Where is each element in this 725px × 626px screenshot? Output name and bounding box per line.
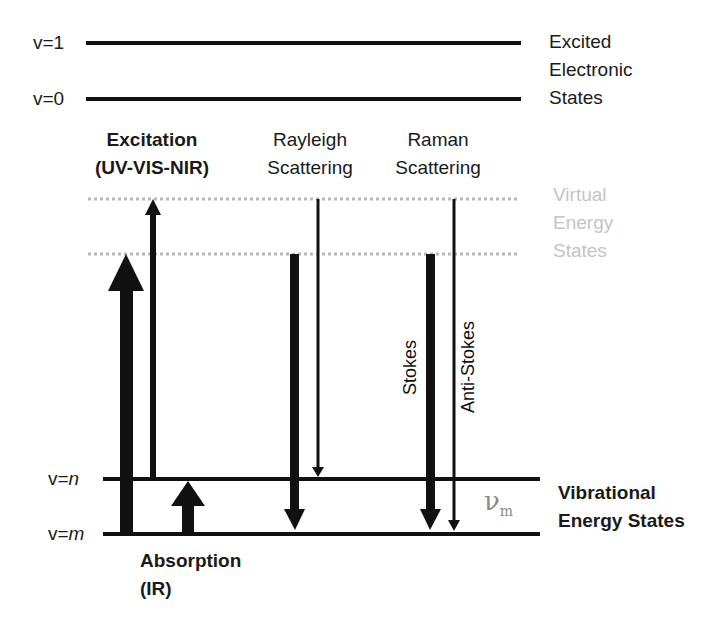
electronic-states-line-2: Electronic	[549, 56, 632, 84]
vibrational-frequency-symbol: νm	[484, 486, 513, 519]
raman-subtitle: Scattering	[373, 154, 503, 182]
anti-stokes-label: Anti-Stokes	[458, 321, 479, 413]
level-vm-var: m	[69, 523, 85, 544]
nu-base: ν	[484, 486, 500, 516]
rayleigh-thick-arrow	[284, 254, 305, 530]
rayleigh-thin-arrow	[312, 199, 324, 477]
virtual-states-line-1: Virtual	[553, 181, 613, 209]
electronic-states-label: Excited Electronic States	[549, 28, 632, 112]
absorption-subtitle: (IR)	[140, 575, 241, 603]
excitation-subtitle: (UV-VIS-NIR)	[82, 154, 222, 182]
level-vn-prefix: v=	[48, 468, 69, 489]
level-vm-label: v=m	[48, 520, 84, 548]
stokes-label: Stokes	[400, 340, 421, 395]
excitation-header: Excitation (UV-VIS-NIR)	[82, 126, 222, 182]
level-vn-label: v=n	[48, 465, 79, 493]
level-v0-label: v=0	[33, 85, 64, 113]
vibrational-states-line-1: Vibrational	[558, 479, 685, 507]
rayleigh-subtitle: Scattering	[245, 154, 375, 182]
absorption-label: Absorption (IR)	[140, 547, 241, 603]
excitation-title: Excitation	[82, 126, 222, 154]
level-v1-label: v=1	[33, 29, 64, 57]
vibrational-states-label: Vibrational Energy States	[558, 479, 685, 535]
rayleigh-header: Rayleigh Scattering	[245, 126, 375, 182]
electronic-states-line-1: Excited	[549, 28, 632, 56]
level-vm-prefix: v=	[48, 523, 69, 544]
virtual-states-label: Virtual Energy States	[553, 181, 613, 265]
absorption-ir-arrow	[171, 481, 205, 534]
raman-title: Raman	[373, 126, 503, 154]
level-vn-var: n	[69, 468, 80, 489]
excitation-thick-arrow	[108, 254, 144, 534]
excitation-thin-arrow	[145, 199, 161, 479]
rayleigh-title: Rayleigh	[245, 126, 375, 154]
absorption-title: Absorption	[140, 547, 241, 575]
vibrational-states-line-2: Energy States	[558, 507, 685, 535]
electronic-states-line-3: States	[549, 84, 632, 112]
nu-subscript: m	[500, 503, 513, 519]
virtual-states-line-3: States	[553, 237, 613, 265]
raman-stokes-arrow	[420, 254, 441, 530]
raman-header: Raman Scattering	[373, 126, 503, 182]
virtual-states-line-2: Energy	[553, 209, 613, 237]
